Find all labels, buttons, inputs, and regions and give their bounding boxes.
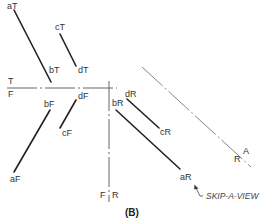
- label-ar: aR: [180, 172, 192, 182]
- front-view: aF bF cF dF: [10, 91, 89, 184]
- skip-a-view-diagram: T F F R A R aT bT cT dT aF bF cF dF aR b…: [0, 0, 267, 222]
- label-df: dF: [78, 91, 89, 101]
- label-at: aT: [7, 1, 18, 11]
- figure-caption: (B): [125, 207, 139, 218]
- label-dr: dR: [125, 89, 137, 99]
- fold-label-a: A: [243, 146, 249, 156]
- label-cf: cF: [62, 128, 73, 138]
- fold-label-t: T: [8, 76, 14, 86]
- label-ct: cT: [55, 22, 66, 32]
- fold-line-ar-stroke: [142, 67, 251, 167]
- line-cd-front: [60, 100, 76, 128]
- label-dt: dT: [78, 65, 89, 75]
- fold-line-tf: T F: [7, 76, 117, 99]
- line-ab-front: [14, 110, 50, 172]
- right-view: aR bR cR dR: [112, 89, 192, 182]
- label-cr: cR: [160, 127, 172, 137]
- label-af: aF: [10, 174, 21, 184]
- label-bt: bT: [49, 65, 60, 75]
- top-view: aT bT cT dT: [7, 1, 89, 82]
- line-cd-top: [60, 34, 76, 66]
- arrowhead-icon: [194, 185, 199, 190]
- fold-label-f: F: [8, 89, 14, 99]
- line-ab-top: [14, 10, 51, 82]
- label-br: bR: [112, 98, 124, 108]
- skip-a-view-callout: SKIP-A-VIEW: [194, 185, 259, 202]
- fold-label-f-side: F: [100, 190, 106, 200]
- leader-line: [196, 188, 203, 196]
- fold-label-r-side: R: [112, 190, 119, 200]
- label-bf: bF: [44, 99, 55, 109]
- skip-a-view-label: SKIP-A-VIEW: [206, 191, 259, 201]
- fold-label-r-aux: R: [234, 154, 241, 164]
- fold-line-ar: A R: [142, 67, 251, 167]
